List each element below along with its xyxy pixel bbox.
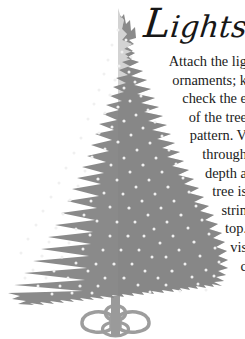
body-line: Attach the lig — [128, 52, 245, 71]
page-title: Lights — [142, 6, 245, 44]
body-line: of the tree — [128, 108, 245, 127]
body-paragraph: Attach the lig ornaments; k check the e … — [128, 52, 245, 275]
body-line: ornaments; k — [128, 71, 245, 90]
body-line: strin — [128, 201, 245, 220]
body-line: vis — [128, 238, 245, 257]
body-line: tree is — [128, 182, 245, 201]
body-line: through — [128, 145, 245, 164]
body-line: pattern. V — [128, 126, 245, 145]
body-line: check the e — [128, 89, 245, 108]
body-line: depth a — [128, 164, 245, 183]
body-line: top. — [128, 219, 245, 238]
article-text-column: Lights Attach the lig ornaments; k check… — [128, 0, 245, 339]
body-line: c — [128, 257, 245, 276]
page-canvas: Lights Attach the lig ornaments; k check… — [0, 0, 245, 339]
